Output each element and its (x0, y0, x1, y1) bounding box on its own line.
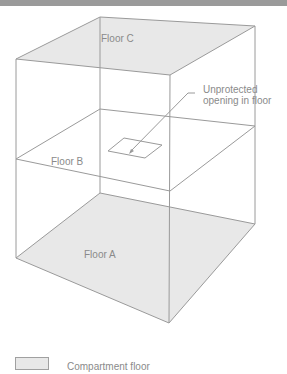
floor-a-label: Floor A (84, 249, 116, 260)
floor-a-plane (16, 193, 255, 323)
compartment-diagram: Floor C Floor B Floor A Unprotected open… (0, 0, 287, 374)
floor-c-plane (16, 17, 255, 75)
annotation-leader-line (130, 93, 195, 152)
legend-swatch (15, 357, 49, 370)
annotation-line-1: Unprotected (203, 84, 257, 95)
floor-b-plane (16, 109, 255, 191)
floor-b-label: Floor B (51, 156, 84, 167)
floor-opening (108, 138, 162, 158)
annotation-line-2: opening in floor (203, 95, 272, 106)
arrow-head-icon (129, 149, 134, 154)
legend-label: Compartment floor (67, 361, 150, 372)
floor-c-label: Floor C (101, 33, 134, 44)
